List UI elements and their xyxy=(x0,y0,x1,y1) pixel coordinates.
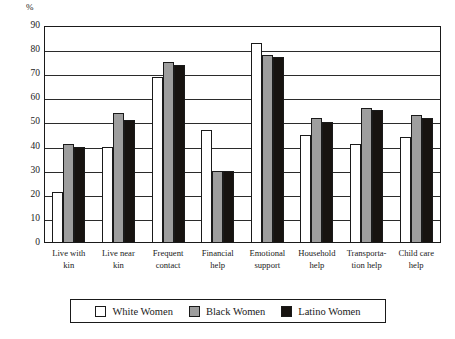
legend-label: White Women xyxy=(112,306,173,317)
x-tick-label: Live nearkin xyxy=(94,248,144,284)
y-tick-label: 20 xyxy=(2,190,40,200)
x-tick-label: Transporta-tion help xyxy=(342,248,392,284)
legend-label: Black Women xyxy=(206,306,265,317)
y-tick-label: 60 xyxy=(2,93,40,103)
x-tick-label-line: help xyxy=(293,260,341,272)
y-axis-unit-label: % xyxy=(26,2,34,12)
legend: White WomenBlack WomenLatino Women xyxy=(70,299,386,323)
legend-swatch-white xyxy=(95,306,106,317)
x-tick-label-line: Household xyxy=(293,248,341,260)
gridline xyxy=(45,220,440,221)
y-axis-tick-labels: 9080706050403020100 xyxy=(0,26,40,243)
x-tick-label-line: Emotional xyxy=(244,248,292,260)
legend-swatch-black xyxy=(281,306,292,317)
x-tick-label-line: support xyxy=(244,260,292,272)
legend-label: Latino Women xyxy=(298,306,360,317)
gridline xyxy=(45,51,440,52)
gridline xyxy=(45,196,440,197)
y-tick-label: 40 xyxy=(2,142,40,152)
x-tick-label: Frequentcontact xyxy=(143,248,193,284)
y-tick-label: 30 xyxy=(2,166,40,176)
bar-chart: % 9080706050403020100 Live withkinLive n… xyxy=(0,0,455,339)
x-tick-label-line: tion help xyxy=(343,260,391,272)
legend-swatch-gray xyxy=(189,306,200,317)
y-tick-label: 50 xyxy=(2,117,40,127)
y-tick-label: 90 xyxy=(2,21,40,31)
x-tick-label-line: contact xyxy=(144,260,192,272)
y-tick-label: 80 xyxy=(2,45,40,55)
x-tick-label: Emotionalsupport xyxy=(243,248,293,284)
x-tick-label-line: help xyxy=(392,260,440,272)
x-tick-label-line: kin xyxy=(45,260,93,272)
x-tick-label-line: Financial xyxy=(194,248,242,260)
y-tick-label: 0 xyxy=(2,238,40,248)
x-tick-label: Child carehelp xyxy=(391,248,441,284)
legend-item: Latino Women xyxy=(281,306,360,317)
y-tick-label: 70 xyxy=(2,69,40,79)
x-tick-label-line: Frequent xyxy=(144,248,192,260)
x-tick-label: Live withkin xyxy=(44,248,94,284)
x-tick-label-line: Live with xyxy=(45,248,93,260)
gridline xyxy=(45,99,440,100)
x-tick-label: Financialhelp xyxy=(193,248,243,284)
gridline xyxy=(45,123,440,124)
x-tick-label-line: help xyxy=(194,260,242,272)
x-tick-label: Householdhelp xyxy=(292,248,342,284)
legend-item: White Women xyxy=(95,306,173,317)
gridline xyxy=(45,75,440,76)
y-tick-label: 10 xyxy=(2,214,40,224)
x-axis-labels: Live withkinLive nearkinFrequentcontactF… xyxy=(44,248,441,284)
legend-item: Black Women xyxy=(189,306,265,317)
x-tick-label-line: Live near xyxy=(95,248,143,260)
x-tick-label-line: Transporta- xyxy=(343,248,391,260)
x-tick-label-line: kin xyxy=(95,260,143,272)
gridline xyxy=(45,148,440,149)
gridline xyxy=(45,172,440,173)
plot-area xyxy=(44,26,441,243)
x-tick-label-line: Child care xyxy=(392,248,440,260)
